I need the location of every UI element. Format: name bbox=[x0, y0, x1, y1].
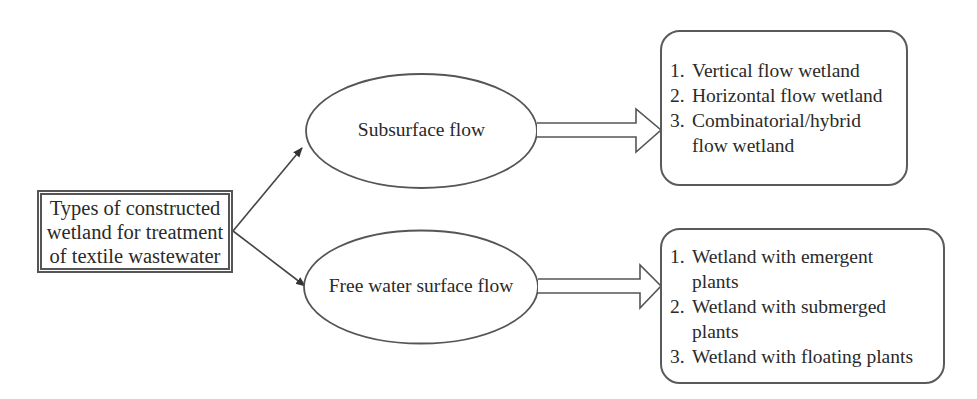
block-arrow-subsurface bbox=[537, 109, 661, 152]
root-node-box: Types of constructed wetland for treatme… bbox=[37, 190, 233, 273]
subsurface-types-box: 1. Vertical flow wetland 2. Horizontal f… bbox=[660, 30, 908, 186]
list-item: 2. Horizontal flow wetland bbox=[670, 83, 898, 108]
root-line: of textile wastewater bbox=[50, 244, 221, 268]
list-item: 2. Wetland with submerged plants bbox=[670, 294, 935, 344]
arrow-to-subsurface bbox=[233, 148, 302, 231]
arrow-to-free-water bbox=[233, 231, 305, 286]
list-item: 3. Combinatorial/hybrid flow wetland bbox=[670, 108, 898, 158]
root-line: Types of constructed bbox=[50, 196, 221, 220]
subsurface-flow-label: Subsurface flow bbox=[306, 119, 537, 141]
free-water-flow-label: Free water surface flow bbox=[304, 275, 538, 297]
list-item: 3. Wetland with floating plants bbox=[670, 344, 935, 369]
list-item: 1. Vertical flow wetland bbox=[670, 58, 898, 83]
list-item: 1. Wetland with emergent plants bbox=[670, 244, 935, 294]
free-water-types-box: 1. Wetland with emergent plants 2. Wetla… bbox=[660, 228, 945, 384]
root-line: wetland for treatment bbox=[47, 220, 223, 244]
block-arrow-free-water bbox=[538, 265, 661, 308]
